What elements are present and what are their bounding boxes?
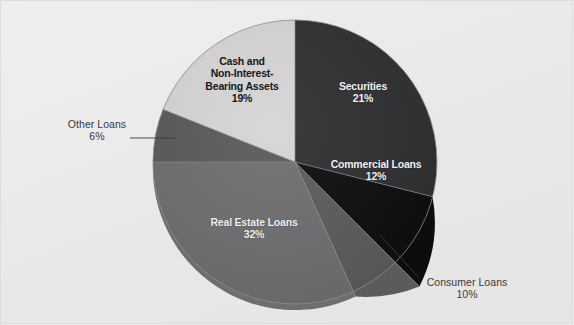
slice-label-cash-assets-line3: Bearing Assets (181, 80, 303, 92)
slice-label-securities: Securities 21% (318, 80, 408, 105)
slice-label-cash-assets-value: 19% (181, 92, 303, 104)
slice-label-other-loans-value: 6% (54, 130, 140, 142)
slice-label-commercial-loans-name: Commercial Loans (316, 158, 436, 170)
slice-label-cash-assets-line1: Cash and (181, 55, 303, 67)
slice-label-consumer-loans-name: Consumer Loans (413, 276, 521, 288)
slice-label-commercial-loans: Commercial Loans 12% (316, 158, 436, 183)
slice-label-real-estate-loans: Real Estate Loans 32% (194, 216, 314, 241)
slice-label-cash-assets-line2: Non-Interest- (181, 67, 303, 79)
pie-chart-figure: Securities 21% Commercial Loans 12% Cash… (0, 0, 574, 325)
slice-label-cash-assets: Cash and Non-Interest- Bearing Assets 19… (181, 55, 303, 105)
slice-label-commercial-loans-value: 12% (316, 170, 436, 182)
slice-label-other-loans-name: Other Loans (54, 118, 140, 130)
slice-label-consumer-loans-value: 10% (413, 288, 521, 300)
slice-label-real-estate-loans-name: Real Estate Loans (194, 216, 314, 228)
slice-label-consumer-loans: Consumer Loans 10% (413, 276, 521, 301)
slice-label-securities-value: 21% (318, 92, 408, 104)
slice-label-securities-name: Securities (318, 80, 408, 92)
slice-label-real-estate-loans-value: 32% (194, 228, 314, 240)
slice-label-other-loans: Other Loans 6% (54, 118, 140, 143)
